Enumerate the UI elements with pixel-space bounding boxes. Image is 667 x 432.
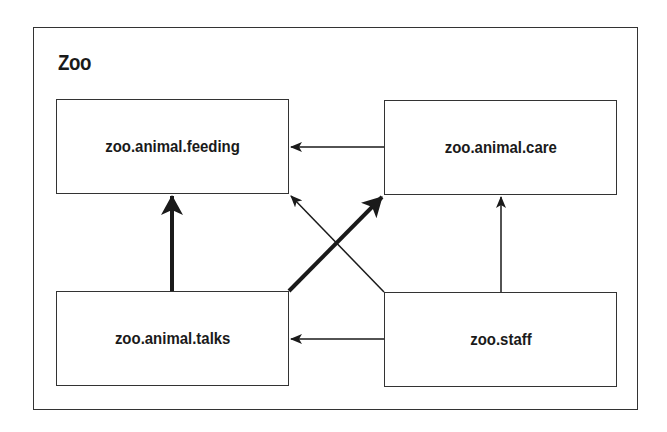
node-label: zoo.animal.talks (115, 329, 231, 349)
node-zoo-staff: zoo.staff (384, 292, 617, 387)
edge-talks-to-care (289, 197, 382, 291)
node-zoo-animal-talks: zoo.animal.talks (56, 291, 289, 386)
node-label: zoo.staff (470, 330, 532, 350)
node-zoo-animal-feeding: zoo.animal.feeding (56, 99, 289, 194)
node-zoo-animal-care: zoo.animal.care (384, 100, 617, 195)
node-label: zoo.animal.feeding (105, 137, 240, 157)
node-label: zoo.animal.care (444, 138, 556, 158)
